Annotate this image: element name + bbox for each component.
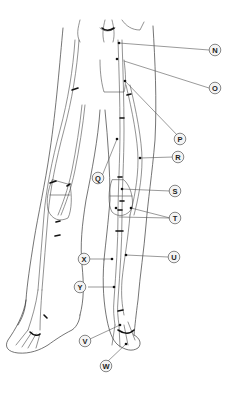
- svg-text:P: P: [177, 135, 182, 144]
- svg-text:U: U: [171, 253, 176, 262]
- point-P: [124, 80, 127, 83]
- svg-text:V: V: [82, 337, 87, 346]
- point-X: [111, 258, 114, 261]
- label-R: R: [172, 151, 184, 163]
- svg-text:N: N: [212, 46, 217, 55]
- point-T2: [130, 207, 133, 210]
- label-X: X: [78, 253, 90, 265]
- label-P: P: [174, 133, 186, 145]
- leader-T2: [131, 208, 170, 218]
- label-U: U: [168, 251, 180, 263]
- label-W: W: [100, 360, 112, 372]
- label-N: N: [209, 44, 221, 56]
- point-N: [118, 42, 121, 45]
- label-T: T: [169, 212, 181, 224]
- label-Q: Q: [92, 172, 104, 184]
- svg-text:X: X: [81, 255, 86, 264]
- leader-S: [122, 189, 170, 191]
- point-O: [116, 58, 119, 61]
- leader-V: [90, 325, 120, 339]
- leader-O: [124, 61, 209, 88]
- svg-text:T: T: [173, 214, 178, 223]
- point-R: [139, 157, 142, 160]
- pelvic-veins: [78, 20, 144, 92]
- svg-text:W: W: [102, 362, 110, 371]
- svg-text:Y: Y: [77, 283, 82, 292]
- point-V: [119, 324, 122, 327]
- right-leg-veins: [109, 40, 142, 347]
- leg-veins-diagram: N O P Q R S T U: [0, 0, 238, 394]
- leader-R: [140, 157, 173, 158]
- label-Y: Y: [74, 281, 86, 293]
- point-W: [125, 343, 128, 346]
- point-Y: [113, 286, 116, 289]
- left-leg-veins: [16, 40, 85, 348]
- point-S: [121, 188, 124, 191]
- leader-T1: [119, 217, 170, 218]
- point-U: [125, 254, 128, 257]
- point-T1: [115, 207, 118, 210]
- svg-text:R: R: [175, 153, 181, 162]
- svg-text:Q: Q: [95, 174, 101, 183]
- point-Q: [116, 138, 119, 141]
- leader-P: [125, 81, 180, 138]
- leader-U: [126, 255, 168, 257]
- label-S: S: [169, 185, 181, 197]
- label-V: V: [79, 335, 91, 347]
- svg-text:S: S: [172, 187, 177, 196]
- leader-N: [119, 43, 209, 50]
- leader-W: [107, 344, 126, 362]
- svg-text:O: O: [212, 84, 218, 93]
- label-O: O: [209, 82, 221, 94]
